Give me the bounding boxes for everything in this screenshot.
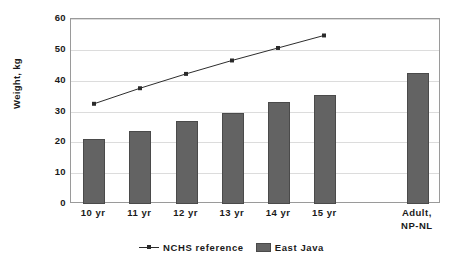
legend-entry: NCHS reference	[139, 242, 244, 253]
legend-label: NCHS reference	[163, 242, 244, 253]
bar	[129, 131, 151, 204]
y-tick-label: 40	[36, 75, 66, 85]
y-axis-title: Weight, kg	[11, 44, 22, 124]
legend-line-marker-icon	[139, 243, 159, 252]
bar	[407, 73, 429, 204]
bar	[314, 95, 336, 204]
legend-entry: East Java	[256, 242, 324, 253]
legend-label: East Java	[275, 242, 324, 253]
bar	[222, 113, 244, 204]
nchs-reference-line-series	[71, 19, 439, 202]
y-tick-label: 60	[36, 13, 66, 23]
bar	[268, 102, 290, 204]
nchs-reference-marker	[322, 33, 326, 37]
plot-inner	[71, 19, 439, 202]
nchs-reference-line	[94, 35, 324, 103]
x-tick-label: 15 yr	[292, 206, 356, 219]
y-tick-label: 20	[36, 136, 66, 146]
weight-by-age-chart: Weight, kg 0102030405060 10 yr11 yr12 yr…	[0, 0, 463, 262]
y-tick-label: 30	[36, 106, 66, 116]
bar	[176, 121, 198, 204]
plot-area	[70, 18, 440, 203]
nchs-reference-marker	[138, 86, 142, 90]
y-tick-label: 10	[36, 167, 66, 177]
x-tick-label: Adult, NP-NL	[385, 206, 449, 232]
legend-swatch-icon	[256, 243, 271, 252]
y-axis-tick-labels: 0102030405060	[36, 0, 66, 262]
y-tick-label: 50	[36, 44, 66, 54]
nchs-reference-marker	[230, 59, 234, 63]
nchs-reference-marker	[184, 72, 188, 76]
nchs-reference-marker	[92, 102, 96, 106]
bar	[83, 139, 105, 204]
nchs-reference-marker	[276, 46, 280, 50]
chart-legend: NCHS referenceEast Java	[0, 242, 463, 253]
x-axis-tick-labels: 10 yr11 yr12 yr13 yr14 yr15 yrAdult, NP-…	[70, 206, 440, 246]
